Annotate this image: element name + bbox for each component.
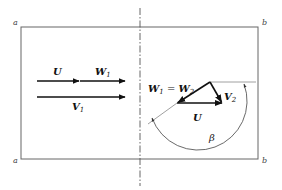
corner-label-bottom-left: a [13,157,18,165]
v1-label: V1 [72,102,84,114]
beta-angle-label: β [209,133,215,143]
v2-label: V2 [224,92,236,104]
corner-label-top-left: a [13,19,18,27]
corner-label-bottom-right: b [262,157,267,165]
u-label-left: U [53,67,62,77]
u-label-right: U [193,113,202,123]
v2-vector-arrow [210,82,222,102]
corner-label-top-right: b [262,19,267,27]
w1-label-left: W1 [95,67,111,79]
control-surface-rectangle [21,27,258,159]
w1-equals-w2-label: W1 = W2 [148,84,194,96]
diagram-canvas [0,0,282,190]
velocity-triangle-diagram: a b a b U W1 V1 W1 = W2 V2 U β [0,0,282,190]
blade-direction-line [148,103,177,124]
